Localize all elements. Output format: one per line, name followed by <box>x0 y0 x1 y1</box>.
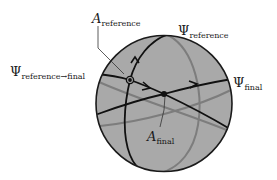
reference-point <box>128 78 132 82</box>
label-psi-final: Ψfinal <box>233 74 262 90</box>
label-subscript: reference <box>101 19 140 28</box>
label-symbol: Ψ <box>233 75 244 90</box>
label-psi-reference-to-final: Ψreference→final <box>10 63 85 79</box>
label-symbol: Ψ <box>178 23 189 38</box>
label-symbol: Ψ <box>10 64 21 79</box>
final-point <box>161 91 167 97</box>
label-symbol: A <box>147 129 156 144</box>
label-subscript: final <box>244 83 262 92</box>
label-a-reference: Areference <box>92 10 141 26</box>
label-psi-reference: Ψreference <box>178 22 229 38</box>
label-subscript: reference <box>189 31 228 40</box>
label-subscript: final <box>156 137 174 146</box>
label-a-final: Afinal <box>147 128 174 144</box>
label-subscript: reference→final <box>21 72 85 81</box>
label-symbol: A <box>92 11 101 26</box>
